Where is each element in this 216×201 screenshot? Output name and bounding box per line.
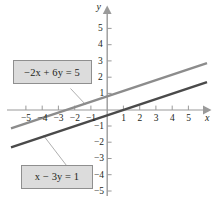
x-tick-label-1: 1 [121, 114, 126, 124]
y-tick-label--3: −3 [94, 154, 104, 164]
y-axis [103, 6, 112, 197]
y-tick-label-2: 2 [98, 73, 103, 83]
y-tick-label--5: −5 [94, 187, 104, 197]
x-tick-label-3: 3 [154, 114, 159, 124]
x-tick-label--5: −5 [21, 114, 31, 124]
x-tick-label--2: −2 [70, 114, 80, 124]
y-tick-label-1: 1 [100, 89, 105, 99]
y-tick-label--1: −1 [94, 122, 104, 132]
x-tick-label-5: 5 [186, 114, 191, 124]
y-tick-label-5: 5 [98, 24, 103, 34]
leader-line-upper [71, 89, 86, 105]
equation-label-lower: x − 3y = 1 [21, 165, 93, 189]
leader-line-lower [44, 136, 67, 166]
graph-figure: −5 −4 −3 −2 −1 1 2 3 4 5 5 4 3 2 1 −1 −2… [0, 0, 216, 201]
x-tick-label--3: −3 [54, 114, 64, 124]
x-axis-label: x [205, 113, 209, 123]
y-axis-label: y [97, 2, 101, 12]
y-tick-label--2: −2 [94, 138, 104, 148]
y-tick-label-3: 3 [98, 57, 103, 67]
x-tick-label-4: 4 [170, 114, 175, 124]
x-tick-label-2: 2 [137, 114, 142, 124]
equation-label-upper: −2x + 6y = 5 [13, 60, 92, 84]
y-tick-label-4: 4 [98, 40, 103, 50]
x-tick-label--4: −4 [37, 114, 47, 124]
y-tick-label--4: −4 [94, 171, 104, 181]
